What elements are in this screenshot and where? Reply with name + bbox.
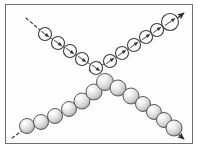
hollow-spin-node xyxy=(52,37,65,50)
hollow-spin-node xyxy=(151,24,164,37)
sphere-node xyxy=(20,119,35,134)
hollow-spin-node xyxy=(90,62,103,75)
hollow-spin-node xyxy=(39,28,52,41)
sphere-node xyxy=(34,115,49,130)
sphere-body xyxy=(48,109,63,124)
sphere-node xyxy=(48,109,63,124)
hollow-spin-node xyxy=(104,55,117,68)
particle-chain-diagram xyxy=(0,0,198,149)
hollow-spin-chain xyxy=(39,14,179,75)
sphere-body xyxy=(34,115,49,130)
sphere-node xyxy=(166,120,182,136)
hollow-spin-node xyxy=(162,14,179,31)
hollow-spin-node xyxy=(64,45,77,58)
hollow-spin-node xyxy=(116,47,129,60)
hollow-spin-node xyxy=(128,39,141,52)
sphere-body xyxy=(20,119,35,134)
figure-container: Crossing particle chains diagram xyxy=(0,0,198,149)
upper-left-dashed-line xyxy=(26,18,40,30)
hollow-spin-node xyxy=(76,53,89,66)
sphere-body xyxy=(166,120,182,136)
shaded-sphere-chain xyxy=(20,74,183,137)
